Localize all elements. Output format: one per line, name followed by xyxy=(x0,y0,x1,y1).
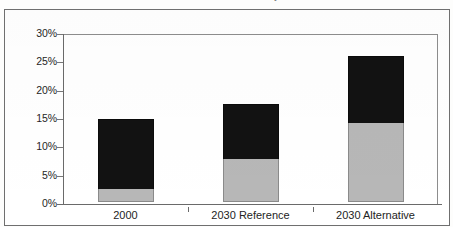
y-tick-label: 25% xyxy=(11,55,57,67)
y-tick-label: 30% xyxy=(11,27,57,39)
bar-segment-lower[interactable] xyxy=(98,189,154,202)
x-tick-label: 2030 Alternative xyxy=(313,209,438,221)
y-tick-label: 0% xyxy=(11,197,57,209)
figure-title: in the Reference and Alternative Policy … xyxy=(0,0,453,7)
x-tick-mark xyxy=(313,207,314,212)
bar-segment-upper[interactable] xyxy=(223,104,279,159)
bar-segment-lower[interactable] xyxy=(223,159,279,202)
bar-2030-alternative[interactable] xyxy=(348,56,404,202)
bar-segment-lower[interactable] xyxy=(348,123,404,202)
y-tick-label: 10% xyxy=(11,140,57,152)
chart-page: in the Reference and Alternative Policy … xyxy=(0,0,453,227)
bar-segment-upper[interactable] xyxy=(348,56,404,123)
x-axis-line xyxy=(57,204,442,205)
y-axis-labels: 0%5%10%15%20%25%30% xyxy=(5,10,57,226)
chart-frame: 0%5%10%15%20%25%30% 20002030 Reference20… xyxy=(4,9,450,226)
x-tick-label: 2030 Reference xyxy=(188,209,313,221)
x-tick-mark xyxy=(188,207,189,212)
y-tick-label: 20% xyxy=(11,84,57,96)
y-axis-line xyxy=(63,34,64,205)
y-tick-label: 15% xyxy=(11,112,57,124)
y-tick-label: 5% xyxy=(11,169,57,181)
x-axis-labels: 20002030 Reference2030 Alternative xyxy=(63,207,438,226)
bar-2030-reference[interactable] xyxy=(223,104,279,202)
bar-2000[interactable] xyxy=(98,119,154,202)
x-tick-label: 2000 xyxy=(63,209,188,221)
bar-segment-upper[interactable] xyxy=(98,119,154,189)
